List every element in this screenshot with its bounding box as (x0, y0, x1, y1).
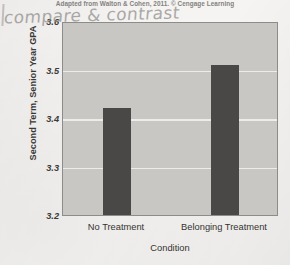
bar-chart-figure: Second Term, Senior Year GPA 3.63.53.43.… (0, 0, 290, 265)
bar (211, 65, 239, 215)
x-axis-title: Condition (62, 243, 278, 253)
y-tick-label: 3.3 (33, 163, 59, 173)
gridline (63, 71, 277, 72)
x-tick-label: No Treatment (88, 222, 144, 232)
y-tick-label: 3.4 (33, 114, 59, 124)
y-axis-tick-labels: 3.63.53.43.33.2 (33, 0, 59, 265)
chart-page: Adapted from Walton & Cohen, 2011. © Cen… (0, 0, 290, 265)
gridline (63, 119, 277, 120)
y-tick-label: 3.5 (33, 66, 59, 76)
bar (103, 108, 131, 215)
x-tick-label: Belonging Treatment (181, 222, 267, 232)
x-axis-tick-labels: No TreatmentBelonging Treatment (62, 222, 278, 238)
y-tick-label: 3.6 (33, 17, 59, 27)
y-tick-label: 3.2 (33, 211, 59, 221)
plot-area (62, 22, 278, 216)
gridline (63, 168, 277, 169)
